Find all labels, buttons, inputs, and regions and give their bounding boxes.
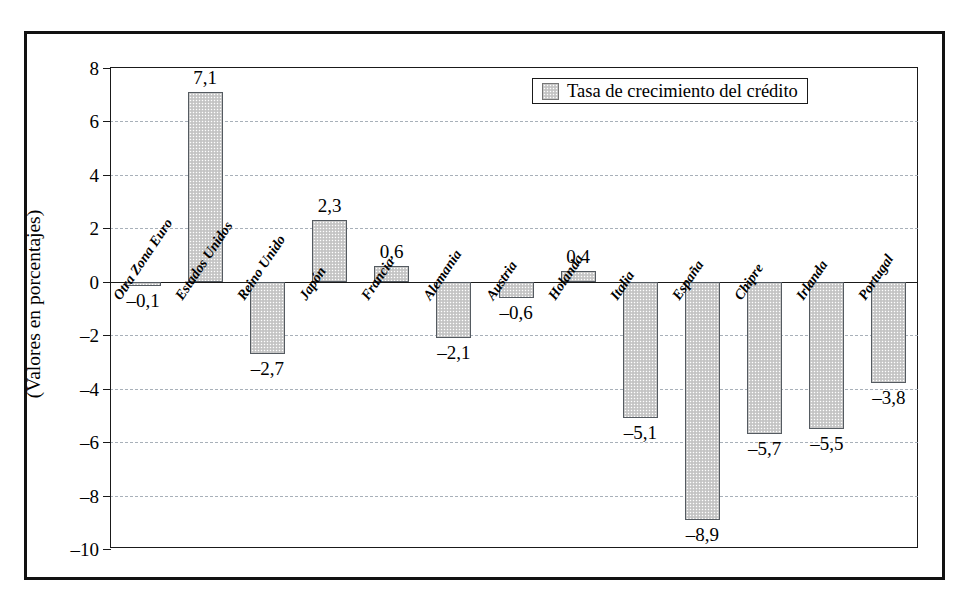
- y-tick-mark: [103, 175, 111, 176]
- bar-reino-unido: [250, 282, 285, 354]
- value-label: –5,5: [792, 434, 862, 453]
- value-label: –5,1: [605, 423, 675, 442]
- chart-figure: (Valores en porcentajes) 86420–2–4–6–8–1…: [0, 0, 974, 608]
- y-tick-mark: [103, 442, 111, 443]
- y-tick-label: 4: [90, 165, 100, 184]
- value-label: –2,7: [232, 359, 302, 378]
- y-tick-mark: [103, 389, 111, 390]
- y-tick-mark: [103, 335, 111, 336]
- y-tick-mark: [103, 68, 111, 69]
- value-label: 7,1: [170, 68, 240, 87]
- value-label: –2,1: [419, 343, 489, 362]
- value-label: –3,8: [854, 388, 924, 407]
- y-tick-mark: [103, 228, 111, 229]
- y-tick-label: 6: [90, 112, 100, 131]
- y-tick-mark: [103, 282, 111, 283]
- bar-portugal: [871, 282, 906, 384]
- y-tick-mark: [103, 549, 111, 550]
- bar-italia: [623, 282, 658, 418]
- value-label: 2,3: [295, 196, 365, 215]
- legend-swatch-icon: [542, 83, 559, 100]
- y-tick-label: –8: [80, 486, 99, 505]
- plot-area: 86420–2–4–6–8–10 –0,17,1–2,72,30,6–2,1–0…: [110, 67, 918, 548]
- y-tick-label: 8: [90, 59, 100, 78]
- gridline: [110, 496, 918, 497]
- bar-españa: [685, 282, 720, 520]
- y-tick-mark: [103, 121, 111, 122]
- y-tick-label: –10: [71, 540, 100, 559]
- value-label: 0,6: [357, 242, 427, 261]
- legend-label: Tasa de crecimiento del crédito: [567, 82, 798, 101]
- bar-chipre: [747, 282, 782, 434]
- gridline: [110, 335, 918, 336]
- value-label: –8,9: [667, 525, 737, 544]
- y-tick-label: –4: [80, 379, 99, 398]
- y-tick-mark: [103, 496, 111, 497]
- chart-legend: Tasa de crecimiento del crédito: [532, 78, 808, 104]
- gridline: [110, 389, 918, 390]
- value-label: –0,6: [481, 303, 551, 322]
- y-axis-title: (Valores en porcentajes): [23, 210, 45, 398]
- y-tick-label: 2: [90, 219, 100, 238]
- gridline: [110, 175, 918, 176]
- bar-irlanda: [809, 282, 844, 429]
- gridline: [110, 121, 918, 122]
- y-tick-label: –2: [80, 326, 99, 345]
- y-tick-label: –6: [80, 433, 99, 452]
- value-label: –5,7: [730, 439, 800, 458]
- category-label: Japón: [296, 264, 328, 302]
- bar-alemania: [436, 282, 471, 338]
- y-tick-label: 0: [90, 272, 100, 291]
